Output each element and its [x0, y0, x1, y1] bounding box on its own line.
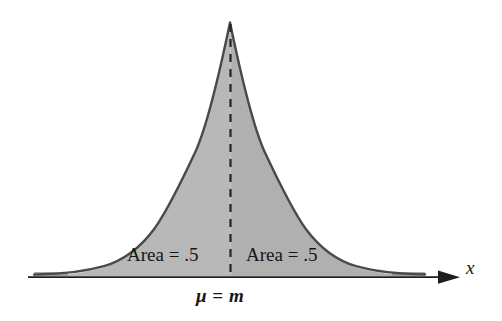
mean-median-label: μ = m	[196, 286, 244, 305]
x-axis-arrow-icon	[438, 271, 460, 284]
area-label-left: Area = .5	[127, 245, 198, 264]
normal-distribution-figure: Area = .5 Area = .5 μ = m x	[0, 0, 502, 321]
area-label-right: Area = .5	[246, 245, 317, 264]
distribution-chart-svg	[0, 0, 502, 321]
x-axis-label: x	[466, 258, 474, 277]
